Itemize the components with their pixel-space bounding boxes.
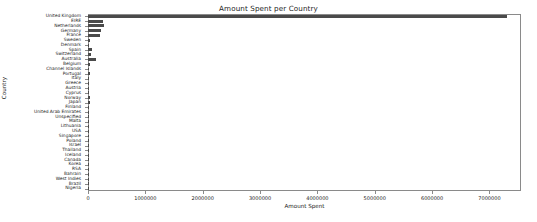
x-tick-label: 5000000 [364, 195, 386, 201]
bar [88, 29, 101, 32]
x-tick-label: 4000000 [306, 195, 328, 201]
bar-row [88, 87, 521, 90]
bar-row [88, 149, 521, 152]
bar [88, 149, 89, 152]
bar-row [88, 168, 521, 171]
bar [88, 178, 89, 181]
x-tick-label: 3000000 [249, 195, 271, 201]
bar-row [88, 24, 521, 27]
chart-figure: Amount Spent per Country United KingdomE… [0, 0, 537, 222]
bar [88, 163, 89, 166]
bar-row [88, 182, 521, 185]
bar [88, 144, 89, 147]
bar [88, 139, 89, 142]
bar [88, 120, 89, 123]
bar-row [88, 96, 521, 99]
x-tick-mark [88, 191, 89, 194]
bar-row [88, 106, 521, 109]
bar [88, 20, 103, 23]
bar-row [88, 48, 521, 51]
x-tick-label: 6000000 [421, 195, 443, 201]
bar [88, 58, 96, 61]
bar [88, 96, 90, 99]
bar [88, 115, 89, 118]
bar-row [88, 20, 521, 23]
bar [88, 168, 89, 171]
bar-row [88, 111, 521, 114]
bar-row [88, 144, 521, 147]
bar [88, 91, 89, 94]
bar-row [88, 187, 521, 190]
x-tick-label: 2000000 [192, 195, 214, 201]
bar [88, 53, 91, 56]
x-tick-mark [317, 191, 318, 194]
bar [88, 173, 89, 176]
x-tick-mark [203, 191, 204, 194]
x-tick-label: 1000000 [134, 195, 156, 201]
bar-row [88, 63, 521, 66]
bar-row [88, 91, 521, 94]
x-tick-mark [260, 191, 261, 194]
plot-area [88, 14, 521, 191]
bar-row [88, 173, 521, 176]
bar [88, 68, 89, 71]
bar-row [88, 15, 521, 18]
x-tick-mark [432, 191, 433, 194]
bar [88, 48, 92, 51]
chart-title: Amount Spent per Country [0, 4, 537, 13]
bar-row [88, 135, 521, 138]
bar [88, 77, 89, 80]
bar-row [88, 68, 521, 71]
bar-row [88, 115, 521, 118]
bar [88, 39, 90, 42]
bar [88, 187, 89, 190]
x-tick-label: 0 [86, 195, 89, 201]
x-axis-title: Amount Spent [88, 203, 521, 209]
bar [88, 101, 90, 104]
bar [88, 125, 89, 128]
bar [88, 154, 89, 157]
bar [88, 130, 89, 133]
bar-row [88, 158, 521, 161]
bar-row [88, 163, 521, 166]
bar-row [88, 39, 521, 42]
bar [88, 34, 100, 37]
bar-row [88, 178, 521, 181]
bar-row [88, 154, 521, 157]
x-tick-mark [375, 191, 376, 194]
bar [88, 182, 89, 185]
bar [88, 87, 89, 90]
bar [88, 24, 104, 27]
bar [88, 82, 89, 85]
bar-row [88, 130, 521, 133]
bar [88, 106, 89, 109]
bar-row [88, 77, 521, 80]
bar [88, 63, 90, 66]
y-axis-title: Country [1, 58, 7, 118]
bar [88, 111, 89, 114]
bar-row [88, 125, 521, 128]
bar-row [88, 53, 521, 56]
bar-row [88, 34, 521, 37]
x-tick-mark [489, 191, 490, 194]
bar-row [88, 101, 521, 104]
bar-row [88, 82, 521, 85]
bar [88, 44, 89, 47]
bar-row [88, 139, 521, 142]
x-tick-label: 7000000 [478, 195, 500, 201]
bar [88, 158, 89, 161]
bar-row [88, 72, 521, 75]
bar-row [88, 58, 521, 61]
bar [88, 72, 90, 75]
bar [88, 135, 89, 138]
x-tick-mark [145, 191, 146, 194]
bar [88, 15, 507, 18]
bar-row [88, 29, 521, 32]
y-axis-tick-labels: United KingdomEIRENetherlandsGermanyFran… [0, 14, 85, 191]
bar-row [88, 120, 521, 123]
bar-row [88, 44, 521, 47]
